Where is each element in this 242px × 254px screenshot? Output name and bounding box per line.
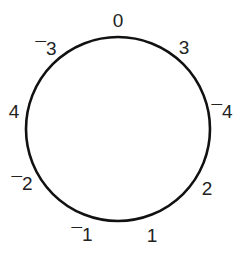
label-2: ¯4 [210,101,232,122]
number-circle [26,37,210,221]
label-3: 2 [202,178,213,199]
number-circle-diagram: 0 3 ¯4 2 1 ¯1 ¯2 4 ¯3 [0,0,242,254]
label-0: 0 [113,10,124,31]
diagram-canvas: 0 3 ¯4 2 1 ¯1 ¯2 4 ¯3 [0,0,242,254]
label-4: 1 [147,225,158,246]
label-8: ¯3 [34,38,56,59]
label-6: ¯2 [10,173,32,194]
label-7: 4 [9,101,20,122]
label-5: ¯1 [70,224,92,245]
label-1: 3 [179,37,190,58]
